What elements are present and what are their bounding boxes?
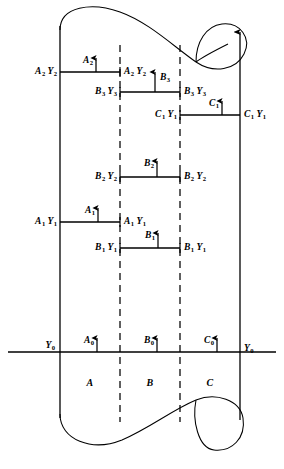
label-c1-right: C1 Y1	[244, 110, 266, 120]
region-label-b: B	[147, 378, 154, 388]
label-a2-right: A2 Y2	[124, 67, 146, 77]
label-c1-left: C1 Y1	[155, 110, 177, 120]
label-a1-left: A1 Y1	[35, 217, 57, 227]
axis-arrows	[97, 338, 217, 352]
region-label-a: A	[87, 378, 94, 388]
bottom-loop	[60, 397, 243, 453]
label-b3-left: B3 Y3	[95, 87, 117, 97]
label-a2-left: A2 Y2	[35, 67, 57, 77]
arrow-label-a2: A2	[83, 56, 93, 66]
label-b3-right: B3 Y3	[184, 87, 206, 97]
arrow-label-b3: B3	[160, 73, 170, 83]
arrow-label-a0: A0	[84, 336, 94, 346]
region-label-c: C	[207, 378, 214, 388]
arrow-label-c1: C1	[209, 99, 219, 109]
label-b1-right: B1 Y1	[184, 243, 206, 253]
label-y0-left: Y0	[45, 341, 55, 351]
label-b2-right: B2 Y2	[184, 172, 206, 182]
arrow-label-b2: B2	[144, 159, 154, 169]
arrow-label-a1: A1	[85, 206, 95, 216]
label-a1-right: A1 Y1	[124, 217, 146, 227]
label-b1-left: B1 Y1	[95, 243, 117, 253]
arrow-label-b0: B0	[144, 336, 154, 346]
diagram-root: A2 Y2 A2 Y2 A2 B3 Y3 B3 Y3 B3 C1 Y1 C1 Y…	[0, 0, 284, 469]
arrow-label-c0: C0	[204, 336, 214, 346]
label-y0-right: Y0	[244, 344, 254, 354]
label-b2-left: B2 Y2	[95, 172, 117, 182]
arrow-label-b1: B1	[145, 231, 155, 241]
